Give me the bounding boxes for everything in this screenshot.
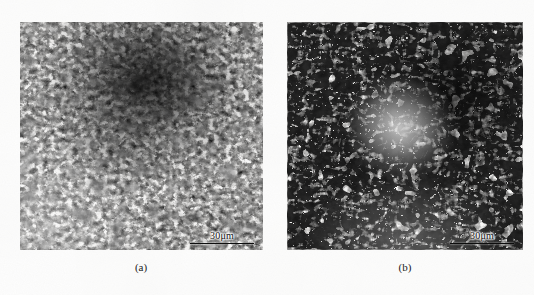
scale-bar-b: 30μm xyxy=(450,230,514,244)
scale-bar-label-b: 30μm xyxy=(450,230,514,242)
scale-bar-a: 30μm xyxy=(190,230,254,244)
figure-root: 30μm xyxy=(0,0,534,295)
micrograph-image-a xyxy=(20,22,263,250)
micrograph-panel-b: 30μm xyxy=(287,22,523,250)
micrograph-panel-a: 30μm xyxy=(20,22,263,250)
subcaption-a: (a) xyxy=(121,261,161,273)
micrograph-image-b xyxy=(287,22,523,250)
scale-bar-label-a: 30μm xyxy=(190,230,254,242)
scale-bar-rule-a xyxy=(190,243,254,244)
scale-bar-rule-b xyxy=(450,243,514,244)
subcaption-b: (b) xyxy=(385,261,425,273)
